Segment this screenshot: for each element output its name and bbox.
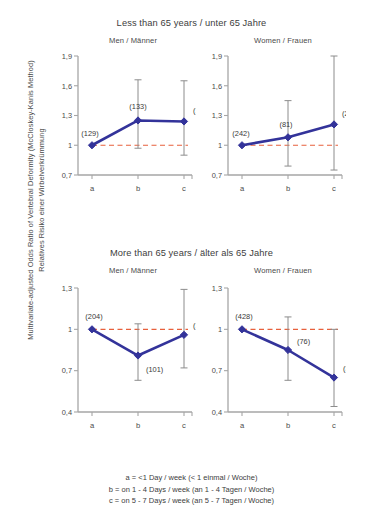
svg-text:(25): (25) — [342, 109, 346, 118]
svg-text:(428): (428) — [235, 312, 252, 321]
svg-text:1: 1 — [68, 325, 72, 334]
svg-text:0,7: 0,7 — [62, 171, 72, 180]
panel-men-under65: 0,711,31,61,9abc(129)(133)(122) — [48, 48, 196, 213]
svg-text:a: a — [240, 421, 245, 430]
svg-text:0,7: 0,7 — [212, 171, 222, 180]
svg-text:0,4: 0,4 — [212, 408, 222, 417]
svg-text:(129): (129) — [81, 129, 98, 138]
svg-text:1,3: 1,3 — [212, 111, 222, 120]
svg-text:1,3: 1,3 — [212, 284, 222, 293]
svg-text:(122): (122) — [193, 106, 196, 115]
group-title-under65: Less than 65 years / unter 65 Jahre — [0, 18, 383, 28]
chart-women-under65: 0,711,31,61,9abc(242)(81)(25) — [198, 48, 346, 213]
panel-title-men-under65: Men / Männer — [68, 36, 198, 45]
svg-text:1,6: 1,6 — [212, 82, 222, 91]
svg-text:1,6: 1,6 — [62, 82, 72, 91]
svg-text:(101): (101) — [146, 365, 163, 374]
group-title-over65: More than 65 years / älter als 65 Jahre — [0, 248, 383, 258]
chart-men-over65: 0,40,711,3abc(204)(101)(120) — [48, 280, 196, 450]
legend-line-a: a = <1 Day / week (< 1 einmal / Woche) — [0, 472, 383, 484]
svg-text:1,3: 1,3 — [62, 284, 72, 293]
y-axis-label: Multivariate-adjusted Odds Ratio of Vert… — [26, 10, 50, 390]
y-axis-label-line2: Relatives Risiko einer Wirbelverkrümmung — [37, 10, 48, 390]
svg-text:b: b — [136, 184, 140, 193]
svg-text:c: c — [332, 184, 336, 193]
svg-text:0,7: 0,7 — [212, 366, 222, 375]
svg-text:a: a — [240, 184, 245, 193]
legend-line-c: c = on 5 - 7 Days / week (an 5 - 7 Tagen… — [0, 495, 383, 507]
svg-text:(76): (76) — [297, 337, 310, 346]
svg-text:1: 1 — [218, 141, 222, 150]
svg-text:1,9: 1,9 — [62, 52, 72, 61]
svg-text:c: c — [332, 421, 336, 430]
panel-title-men-over65: Men / Männer — [68, 266, 198, 275]
svg-text:(204): (204) — [85, 312, 102, 321]
panel-women-over65: 0,40,711,3abc(428)(76)(32) — [198, 280, 346, 450]
legend-line-b: b = on 1 - 4 Days / week (an 1 - 4 Tagen… — [0, 484, 383, 496]
svg-text:0,4: 0,4 — [62, 408, 72, 417]
panel-title-women-under65: Women / Frauen — [218, 36, 348, 45]
svg-text:1: 1 — [218, 325, 222, 334]
svg-text:1,9: 1,9 — [212, 52, 222, 61]
chart-men-under65: 0,711,31,61,9abc(129)(133)(122) — [48, 48, 196, 213]
svg-text:b: b — [136, 421, 140, 430]
svg-text:1: 1 — [68, 141, 72, 150]
svg-text:(242): (242) — [232, 129, 249, 138]
legend: a = <1 Day / week (< 1 einmal / Woche) b… — [0, 472, 383, 507]
svg-text:a: a — [90, 184, 95, 193]
svg-text:c: c — [182, 421, 186, 430]
y-axis-label-line1: Multivariate-adjusted Odds Ratio of Vert… — [26, 10, 37, 390]
svg-text:(120): (120) — [193, 321, 196, 330]
panel-men-over65: 0,40,711,3abc(204)(101)(120) — [48, 280, 196, 450]
figure-root: Multivariate-adjusted Odds Ratio of Vert… — [0, 0, 383, 530]
svg-text:(133): (133) — [129, 102, 146, 111]
svg-text:(32): (32) — [343, 364, 346, 373]
chart-women-over65: 0,40,711,3abc(428)(76)(32) — [198, 280, 346, 450]
svg-text:b: b — [286, 184, 290, 193]
svg-text:a: a — [90, 421, 95, 430]
svg-text:0,7: 0,7 — [62, 366, 72, 375]
panel-title-women-over65: Women / Frauen — [218, 266, 348, 275]
panel-women-under65: 0,711,31,61,9abc(242)(81)(25) — [198, 48, 346, 213]
svg-text:c: c — [182, 184, 186, 193]
svg-text:b: b — [286, 421, 290, 430]
svg-text:(81): (81) — [279, 120, 292, 129]
svg-text:1,3: 1,3 — [62, 111, 72, 120]
